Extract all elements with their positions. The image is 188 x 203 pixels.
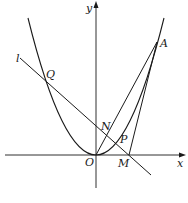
point-N-label: N	[100, 120, 111, 133]
origin-label: O	[85, 156, 94, 169]
y-axis-arrow-icon	[94, 1, 99, 8]
point-M-label: M	[117, 157, 130, 170]
y-axis	[94, 1, 99, 188]
point-Q-label: Q	[46, 68, 55, 81]
point-A-label: A	[159, 37, 168, 50]
line-l-label: l	[16, 52, 20, 65]
y-axis-label: y	[85, 2, 93, 15]
point-P-label: P	[119, 133, 128, 146]
segment-MA	[129, 42, 157, 155]
geometry-figure: y x O l A Q N P M	[0, 0, 188, 203]
x-axis-label: x	[177, 157, 184, 170]
